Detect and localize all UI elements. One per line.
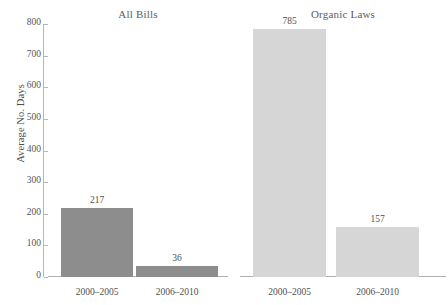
x-axis-category-label: 2000–2005 [61,287,133,297]
y-tick-label: 200 [27,207,41,217]
bar-value-label: 36 [136,253,218,263]
y-tick-label: 400 [27,144,41,154]
bar-chart-figure: Average No. Days 01002003004005006007008… [0,0,448,305]
y-tick-label: 100 [27,238,41,248]
bar: 217 [61,208,133,277]
y-tick-label: 800 [27,17,41,27]
x-axis-category-label: 2006–2010 [336,287,419,297]
bar: 36 [136,266,218,277]
panel-title-all-bills: All Bills [48,8,228,20]
x-axis-category-label: 2000–2005 [253,287,326,297]
panel-all-bills: All Bills 2172000–2005362006–2010 [48,0,228,305]
bar-value-label: 785 [253,16,326,26]
bar-value-label: 157 [336,214,419,224]
y-tick-label: 300 [27,175,41,185]
bar-value-label: 217 [61,195,133,205]
y-tick-label: 700 [27,49,41,59]
y-tick-label: 500 [27,112,41,122]
bar: 785 [253,29,326,277]
y-tick-label: 0 [36,270,41,280]
y-axis-label: Average No. Days [15,49,26,199]
bar: 157 [336,227,419,277]
x-axis-category-label: 2006–2010 [136,287,218,297]
y-tick-label: 600 [27,80,41,90]
panel-organic-laws: Organic Laws 7852000–20051572006–2010 [240,0,446,305]
